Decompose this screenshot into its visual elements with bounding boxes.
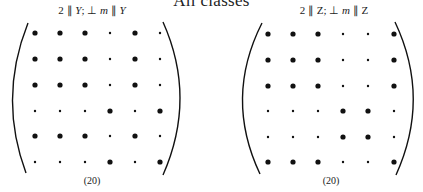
small-dot-entry [59, 161, 61, 163]
small-dot-entry [317, 136, 319, 138]
left-parenthesis [242, 23, 262, 174]
large-dot-entry [157, 159, 162, 164]
small-dot-entry [367, 161, 369, 163]
large-dot-entry [391, 83, 396, 88]
large-dot-entry [265, 31, 270, 36]
large-dot-entry [57, 30, 62, 35]
large-dot-entry [340, 108, 345, 113]
large-dot-entry [265, 159, 270, 164]
right-parenthesis [395, 22, 413, 175]
left-parenthesis [12, 23, 28, 173]
small-dot-entry [109, 84, 111, 86]
large-dot-entry [132, 133, 137, 138]
small-dot-entry [393, 110, 395, 112]
small-dot-entry [34, 110, 36, 112]
small-dot-entry [159, 84, 161, 86]
large-dot-entry [82, 82, 87, 87]
large-dot-entry [157, 108, 162, 113]
matrix-diagram [223, 0, 423, 192]
matrix-panel-z-axis: 2 ∥ Z; ⊥ m ∥ Z (20) [223, 0, 423, 192]
large-dot-entry [57, 56, 62, 61]
small-dot-entry [134, 161, 136, 163]
small-dot-entry [159, 32, 161, 34]
small-dot-entry [367, 59, 369, 61]
equation-number: (20) [0, 175, 192, 186]
small-dot-entry [267, 110, 269, 112]
large-dot-entry [315, 57, 320, 62]
small-dot-entry [34, 161, 36, 163]
large-dot-entry [265, 57, 270, 62]
small-dot-entry [109, 32, 111, 34]
small-dot-entry [109, 58, 111, 60]
large-dot-entry [82, 133, 87, 138]
small-dot-entry [367, 33, 369, 35]
large-dot-entry [32, 133, 37, 138]
small-dot-entry [342, 59, 344, 61]
large-dot-entry [265, 83, 270, 88]
small-dot-entry [342, 33, 344, 35]
equation-number: (20) [231, 175, 423, 186]
large-dot-entry [132, 30, 137, 35]
large-dot-entry [315, 83, 320, 88]
large-dot-entry [365, 108, 370, 113]
matrix-diagram [0, 0, 200, 192]
small-dot-entry [84, 161, 86, 163]
small-dot-entry [342, 161, 344, 163]
large-dot-entry [57, 133, 62, 138]
large-dot-entry [82, 30, 87, 35]
large-dot-entry [107, 108, 112, 113]
large-dot-entry [340, 134, 345, 139]
small-dot-entry [159, 135, 161, 137]
right-parenthesis [163, 22, 180, 175]
large-dot-entry [391, 57, 396, 62]
small-dot-entry [367, 85, 369, 87]
large-dot-entry [290, 57, 295, 62]
small-dot-entry [159, 58, 161, 60]
small-dot-entry [267, 136, 269, 138]
large-dot-entry [132, 56, 137, 61]
large-dot-entry [290, 31, 295, 36]
small-dot-entry [134, 110, 136, 112]
large-dot-entry [315, 159, 320, 164]
large-dot-entry [57, 82, 62, 87]
large-dot-entry [32, 30, 37, 35]
large-dot-entry [82, 56, 87, 61]
large-dot-entry [365, 134, 370, 139]
large-dot-entry [107, 159, 112, 164]
large-dot-entry [315, 31, 320, 36]
large-dot-entry [32, 56, 37, 61]
large-dot-entry [132, 82, 137, 87]
small-dot-entry [109, 135, 111, 137]
small-dot-entry [59, 110, 61, 112]
small-dot-entry [292, 110, 294, 112]
large-dot-entry [391, 31, 396, 36]
small-dot-entry [393, 136, 395, 138]
large-dot-entry [391, 159, 396, 164]
small-dot-entry [317, 110, 319, 112]
small-dot-entry [84, 110, 86, 112]
large-dot-entry [290, 83, 295, 88]
small-dot-entry [292, 136, 294, 138]
large-dot-entry [290, 159, 295, 164]
matrix-panel-y-axis: 2 ∥ Y; ⊥ m ∥ Y (20) [0, 0, 200, 192]
small-dot-entry [342, 85, 344, 87]
large-dot-entry [32, 82, 37, 87]
